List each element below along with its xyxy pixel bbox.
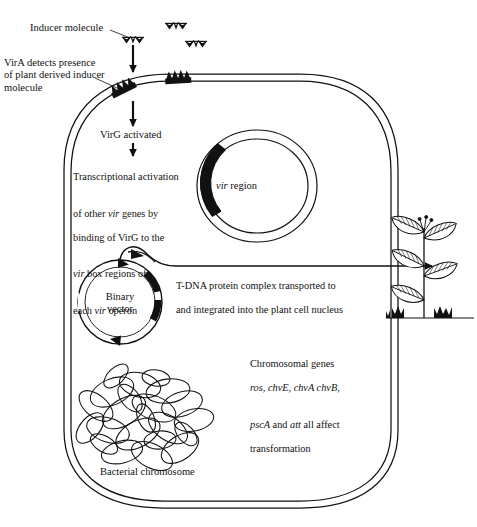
tdna-line-2: and integrated into the plant cell nucle… xyxy=(176,304,343,316)
label-tdna-transfer: T-DNA protein complex transported to and… xyxy=(176,268,343,329)
plant-leaf xyxy=(422,221,458,241)
transcription-line-1: Transcriptional activation xyxy=(73,171,179,183)
label-virg-activated: VirG activated xyxy=(100,129,161,141)
tdna-line-1: T-DNA protein complex transported to xyxy=(176,280,343,292)
plant-leaf xyxy=(423,262,458,280)
label-bacterial-chromosome: Bacterial chromosome xyxy=(100,466,195,478)
diagram-canvas: Inducer molecule VirA detects presence o… xyxy=(0,0,477,527)
chromosomal-gene-names: ros, chvE, chvA chvB, xyxy=(250,382,340,394)
plant-leaf xyxy=(390,284,425,303)
transcription-line-3: binding of VirG to the xyxy=(73,232,179,244)
gene-psca: pscA xyxy=(250,419,270,430)
gene-att: att xyxy=(290,419,301,430)
transcription-line-4: vir box regions of xyxy=(73,256,179,280)
label-chromosomal-genes: Chromosomal genes ros, chvE, chvA chvB, … xyxy=(250,346,340,467)
vir-italic: vir xyxy=(216,180,228,191)
vira-receptor-icon xyxy=(165,69,192,84)
chromosomal-line-3: pscA and att all affect xyxy=(250,407,340,431)
inducer-molecule-group xyxy=(122,22,207,48)
inducer-molecule-icon xyxy=(165,22,187,30)
label-vir-region: vir region xyxy=(216,168,257,193)
bacterial-chromosome xyxy=(71,360,216,477)
inducer-label-leader xyxy=(110,30,130,38)
inducer-molecule-icon xyxy=(122,36,144,44)
transcription-line-2: of other vir genes by xyxy=(73,195,179,219)
chromosomal-line-4: transformation xyxy=(250,443,340,455)
inducer-molecule-icon xyxy=(185,40,207,48)
label-vira-detects: VirA detects presence of plant derived i… xyxy=(4,57,105,94)
label-binary-vector: Binary vector xyxy=(93,291,147,316)
chromosomal-line-1: Chromosomal genes xyxy=(250,358,340,370)
label-inducer-molecule: Inducer molecule xyxy=(30,22,103,34)
vir-italic: vir xyxy=(73,268,84,279)
plant-roots xyxy=(386,306,452,318)
vir-italic: vir xyxy=(108,208,119,219)
